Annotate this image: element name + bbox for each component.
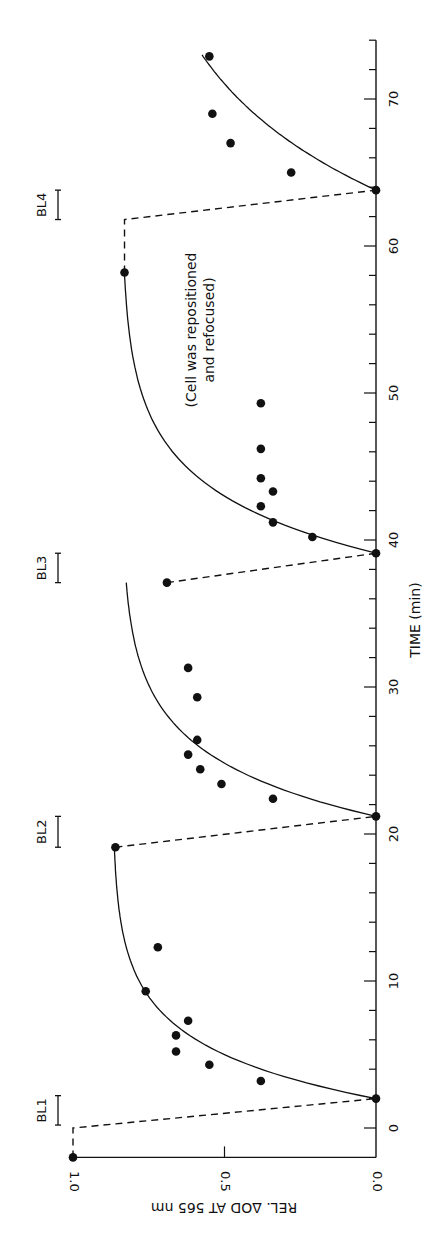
data-point [372,549,381,558]
annotation-line-2: and refocused) [201,277,217,382]
bleach-label: BL1 [34,1098,49,1122]
data-point [184,664,193,673]
data-point [208,109,217,118]
data-point [172,1031,181,1040]
data-point [226,139,235,148]
fit-curve-recovery-3 [125,273,377,554]
data-point [193,693,202,702]
data-point [269,487,278,496]
annotation-note: (Cell was repositioned and refocused) [183,253,217,408]
data-point [120,268,129,277]
time-tick-label: 10 [386,973,401,990]
bleach-markers: BL1BL2BL3BL4 [34,190,61,1125]
fit-curve-recovery-2 [126,583,376,817]
recovery-chart: 0102030405060700.00.51.0 BL1BL2BL3BL4 TI… [0,0,446,1234]
data-point [172,1047,181,1056]
data-point [111,843,120,852]
time-tick-label: 30 [386,679,401,696]
data-point [257,399,266,408]
data-point [141,987,150,996]
time-tick-label: 40 [386,532,401,549]
bleach-transition-dashes [73,190,376,1157]
time-tick-label: 50 [386,385,401,402]
data-point [372,1094,381,1103]
od-tick-label: 0.5 [218,1171,233,1192]
fit-curves [114,55,376,1099]
fit-curve-recovery-1 [114,847,376,1098]
dashed-transition [125,190,376,272]
data-points [69,52,381,1162]
data-point [372,186,381,195]
data-point [193,736,202,745]
data-point [205,52,214,61]
data-point [269,794,278,803]
data-point [163,578,172,587]
data-point [287,168,296,177]
data-point [154,943,163,952]
dashed-transition [115,816,376,847]
x-axis-label: TIME (min) [407,582,423,658]
bleach-label: BL4 [34,193,49,217]
time-tick-label: 60 [386,238,401,255]
bleach-label: BL2 [34,820,49,844]
data-point [257,502,266,511]
y-axis-label: REL. ΔOD AT 565 nm [151,1200,297,1216]
bleach-label: BL3 [34,556,49,580]
time-tick-label: 20 [386,826,401,843]
od-tick-label: 0.0 [370,1171,385,1192]
axes: 0102030405060700.00.51.0 [67,40,402,1192]
dashed-transition [167,553,376,582]
data-point [257,445,266,454]
data-point [257,474,266,483]
od-tick-label: 1.0 [67,1171,82,1192]
data-point [184,750,193,759]
data-point [308,533,317,542]
data-point [269,518,278,527]
time-tick-label: 0 [386,1124,401,1132]
data-point [184,1016,193,1025]
time-tick-label: 70 [386,91,401,108]
data-point [217,780,226,789]
data-point [196,765,205,774]
data-point [69,1153,78,1162]
data-point [257,1077,266,1086]
data-point [372,812,381,821]
annotation-line-1: (Cell was repositioned [183,253,199,408]
data-point [205,1060,214,1069]
